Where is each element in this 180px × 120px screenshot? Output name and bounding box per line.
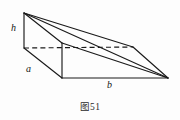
geometry-figure: h a b 图51 [0,0,180,120]
edge-right-rear-slant [133,47,168,78]
edge-front-top-slant [62,43,168,78]
edge-top-back-long [24,13,133,47]
figure-caption: 图51 [0,99,180,113]
label-base-b: b [107,80,112,90]
label-height-h: h [11,23,16,33]
edge-top-to-right-apex [24,13,168,78]
label-depth-a: a [26,64,31,74]
